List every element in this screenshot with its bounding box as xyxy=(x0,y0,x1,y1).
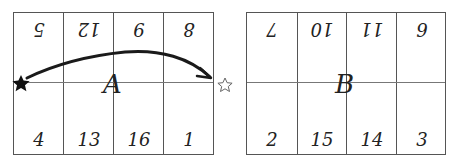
curved-arrow-icon xyxy=(27,51,211,78)
outline-star-icon xyxy=(218,78,232,92)
arrow-overlay xyxy=(0,0,456,164)
